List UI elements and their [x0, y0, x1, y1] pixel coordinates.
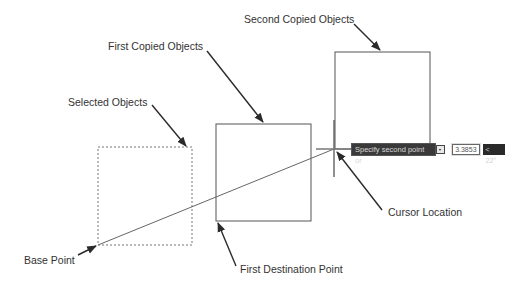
- prompt-text: Specify second point or: [351, 143, 436, 156]
- arrow-base-point: [78, 246, 96, 255]
- arrow-first-destination: [218, 223, 236, 266]
- diagram-canvas: Second Copied Objects First Copied Objec…: [0, 0, 505, 291]
- arrow-first-copied: [207, 51, 263, 122]
- distance-input[interactable]: 3.3853: [452, 144, 479, 155]
- selected-objects-label: Selected Objects: [68, 96, 147, 108]
- first-destination-label: First Destination Point: [240, 263, 343, 275]
- first-copied-label: First Copied Objects: [108, 40, 203, 52]
- second-copied-box: [335, 52, 430, 149]
- base-point-label: Base Point: [24, 254, 75, 266]
- first-copied-box: [216, 124, 311, 221]
- crosshair-cursor-icon: [316, 120, 352, 177]
- second-copied-label: Second Copied Objects: [244, 13, 354, 25]
- arrow-second-copied: [354, 24, 380, 50]
- arrow-selected: [152, 105, 186, 146]
- dynamic-input-tooltip: Specify second point or 3.3853 < 22°: [351, 144, 505, 155]
- dropdown-arrow-icon[interactable]: [436, 145, 445, 154]
- angle-field[interactable]: < 22°: [483, 144, 505, 155]
- selected-objects-box: [98, 147, 192, 245]
- cursor-location-label: Cursor Location: [388, 206, 462, 218]
